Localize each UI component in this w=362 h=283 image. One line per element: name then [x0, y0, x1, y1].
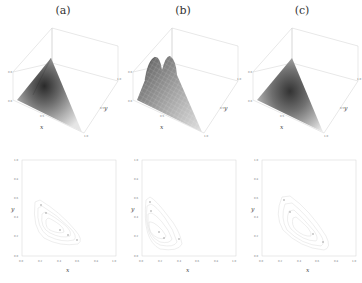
svg-text:1.0: 1.0 [357, 78, 361, 81]
svg-text:0.8: 0.8 [14, 178, 18, 181]
svg-text:0.0: 0.0 [134, 255, 138, 258]
contour-plot-c: 1.00.80.6 0.40.20.0 0.00.20.4 0.60.81.0 … [250, 159, 356, 273]
svg-text:0.2: 0.2 [278, 260, 282, 263]
svg-text:0.6: 0.6 [195, 260, 199, 263]
svg-text:1.0: 1.0 [84, 135, 88, 138]
svg-text:0.0: 0.0 [259, 260, 263, 263]
surface-plot-a: 0.0 0.0 0.5 1.0 0.5 1.0 x y [8, 28, 121, 138]
svg-text:0.2: 0.2 [158, 260, 162, 263]
svg-text:0.4: 0.4 [57, 260, 61, 263]
data-points [149, 201, 180, 240]
axis-label-x: x [40, 123, 44, 130]
axis-label-y: y [10, 205, 15, 213]
svg-text:1.0: 1.0 [134, 159, 138, 162]
axis-label-x: x [186, 266, 190, 273]
data-points [283, 199, 324, 243]
svg-text:0.0: 0.0 [128, 71, 132, 74]
svg-text:0.2: 0.2 [254, 235, 258, 238]
svg-text:0.6: 0.6 [315, 260, 319, 263]
svg-text:0.8: 0.8 [254, 178, 258, 181]
svg-text:0.6: 0.6 [14, 197, 18, 200]
svg-text:0.0: 0.0 [248, 71, 252, 74]
figure-canvas: 0.0 0.0 0.5 1.0 0.5 1.0 x y 0.0 0.0 0.5 … [0, 0, 362, 283]
axis-label-y: y [103, 104, 108, 112]
svg-text:0.4: 0.4 [297, 260, 301, 263]
axis-label-y: y [250, 205, 255, 213]
svg-text:0.0: 0.0 [8, 71, 12, 74]
surface [257, 58, 323, 132]
svg-text:0.0: 0.0 [248, 100, 252, 103]
axis-label-x: x [66, 266, 70, 273]
svg-text:0.2: 0.2 [134, 235, 138, 238]
svg-text:0.6: 0.6 [75, 260, 79, 263]
axis-label-x: x [306, 266, 310, 273]
svg-text:0.8: 0.8 [214, 260, 218, 263]
svg-text:0.0: 0.0 [19, 260, 23, 263]
contour-plot-b: 1.00.80.6 0.40.20.0 0.00.20.4 0.60.81.0 … [130, 159, 236, 273]
svg-text:1.0: 1.0 [324, 135, 328, 138]
svg-text:0.2: 0.2 [38, 260, 42, 263]
svg-text:0.8: 0.8 [134, 178, 138, 181]
svg-text:0.0: 0.0 [8, 100, 12, 103]
svg-text:1.0: 1.0 [204, 135, 208, 138]
axis-label-y: y [130, 205, 135, 213]
svg-text:0.4: 0.4 [134, 216, 138, 219]
surface-plot-b: 0.0 0.0 0.5 1.0 0.5 1.0 x y [128, 28, 241, 138]
svg-text:0.4: 0.4 [177, 260, 181, 263]
svg-text:0.0: 0.0 [254, 255, 258, 258]
svg-text:0.0: 0.0 [139, 260, 143, 263]
svg-text:0.0: 0.0 [14, 255, 18, 258]
axis-label-y: y [343, 104, 348, 112]
svg-text:0.6: 0.6 [254, 197, 258, 200]
svg-text:0.8: 0.8 [334, 260, 338, 263]
svg-text:0.4: 0.4 [14, 216, 18, 219]
axis-label-x: x [280, 123, 284, 130]
axis-label-y: y [223, 104, 228, 112]
svg-text:0.6: 0.6 [134, 197, 138, 200]
svg-text:1.0: 1.0 [254, 159, 258, 162]
svg-text:0.5: 0.5 [40, 115, 44, 118]
surface-plot-c: 0.0 0.0 0.5 1.0 0.5 1.0 x y [248, 28, 361, 138]
svg-text:1.0: 1.0 [117, 78, 121, 81]
axis-label-x: x [160, 123, 164, 130]
contour-plot-a: 1.00.80.6 0.40.20.0 0.00.20.4 0.60.81.0 … [10, 159, 116, 273]
svg-text:1.0: 1.0 [237, 78, 241, 81]
svg-text:0.4: 0.4 [254, 216, 258, 219]
svg-text:0.8: 0.8 [94, 260, 98, 263]
svg-text:0.0: 0.0 [128, 100, 132, 103]
svg-text:0.5: 0.5 [160, 115, 164, 118]
svg-text:1.0: 1.0 [232, 260, 236, 263]
svg-text:0.5: 0.5 [280, 115, 284, 118]
surface [17, 58, 82, 132]
svg-text:0.2: 0.2 [14, 235, 18, 238]
svg-text:1.0: 1.0 [352, 260, 356, 263]
svg-text:1.0: 1.0 [14, 159, 18, 162]
svg-text:1.0: 1.0 [112, 260, 116, 263]
